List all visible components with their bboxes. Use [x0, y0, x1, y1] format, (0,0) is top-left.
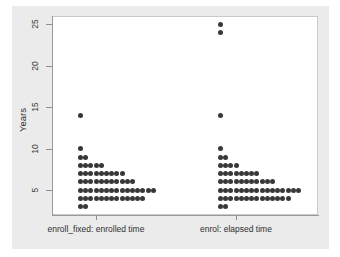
- y-tick-label-25: 25: [26, 15, 44, 33]
- y-tick-15: [46, 107, 52, 108]
- y-tick-label-10: 10: [26, 140, 44, 158]
- x-axis-line: [52, 215, 319, 216]
- y-tick-label-text: 5: [26, 181, 44, 199]
- chart-root: Years 510152025 enroll_fixed: enrolled t…: [0, 0, 340, 257]
- plot-panel: [52, 16, 318, 215]
- y-axis-line: [52, 16, 53, 216]
- y-tick-20: [46, 66, 52, 67]
- y-tick-label-5: 5: [26, 181, 44, 199]
- y-tick-25: [46, 24, 52, 25]
- y-tick-label-text: 15: [26, 98, 44, 116]
- y-tick-label-text: 25: [26, 15, 44, 33]
- y-tick-5: [46, 190, 52, 191]
- x-group-label-1: enrol: elapsed time: [200, 224, 272, 234]
- y-tick-label-text: 20: [26, 57, 44, 75]
- y-tick-label-20: 20: [26, 57, 44, 75]
- x-tick-1: [236, 216, 237, 220]
- y-tick-10: [46, 149, 52, 150]
- x-group-label-0: enroll_fixed: enrolled time: [48, 224, 145, 234]
- y-tick-label-15: 15: [26, 98, 44, 116]
- y-tick-label-text: 10: [26, 140, 44, 158]
- x-tick-0: [96, 216, 97, 220]
